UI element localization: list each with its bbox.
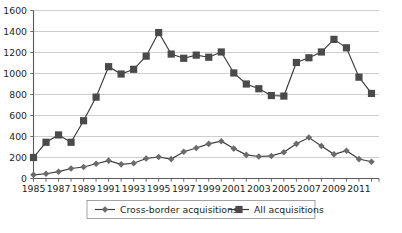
data-point-marker bbox=[93, 161, 100, 168]
y-tick-label: 1000 bbox=[3, 68, 27, 79]
data-point-marker bbox=[230, 145, 237, 152]
x-tick-label: 2003 bbox=[247, 183, 271, 194]
data-point-marker bbox=[30, 154, 37, 161]
chart-container: 02004006008001000120014001600 1985198719… bbox=[0, 0, 402, 233]
data-point-marker bbox=[105, 63, 112, 70]
data-point-marker bbox=[255, 85, 262, 92]
data-point-marker bbox=[42, 139, 49, 146]
data-point-marker bbox=[55, 131, 62, 138]
data-point-marker bbox=[368, 158, 375, 165]
data-point-marker bbox=[318, 143, 325, 150]
data-point-marker bbox=[130, 66, 137, 73]
data-point-marker bbox=[305, 54, 312, 61]
x-tick-label: 1991 bbox=[97, 183, 121, 194]
data-point-marker bbox=[243, 80, 250, 87]
data-point-marker bbox=[105, 157, 112, 164]
data-point-marker bbox=[268, 153, 275, 160]
data-point-marker bbox=[343, 44, 350, 51]
data-point-marker bbox=[343, 147, 350, 154]
data-point-marker bbox=[355, 74, 362, 81]
data-point-marker bbox=[306, 134, 313, 141]
data-point-marker bbox=[268, 92, 275, 99]
data-point-marker bbox=[356, 156, 363, 163]
data-point-marker bbox=[30, 172, 37, 179]
data-point-marker bbox=[293, 59, 300, 66]
gridlines bbox=[34, 11, 380, 158]
x-tick-label: 2009 bbox=[322, 183, 346, 194]
data-point-marker bbox=[92, 94, 99, 101]
data-point-marker bbox=[43, 170, 50, 177]
x-tick-label: 1989 bbox=[72, 183, 96, 194]
data-point-marker bbox=[193, 52, 200, 59]
x-tick-label: 1995 bbox=[147, 183, 171, 194]
data-point-marker bbox=[143, 53, 150, 60]
y-axis-ticks: 02004006008001000120014001600 bbox=[3, 5, 33, 184]
x-tick-label: 1997 bbox=[172, 183, 196, 194]
data-point-marker bbox=[130, 160, 137, 167]
y-tick-label: 1600 bbox=[3, 5, 27, 16]
data-point-marker bbox=[256, 153, 263, 160]
y-tick-label: 200 bbox=[9, 152, 27, 163]
y-tick-label: 600 bbox=[9, 110, 27, 121]
x-tick-label: 1985 bbox=[22, 183, 46, 194]
x-tick-label: 2011 bbox=[347, 183, 371, 194]
data-point-marker bbox=[331, 151, 338, 158]
data-point-marker bbox=[67, 139, 74, 146]
x-tick-label: 2007 bbox=[297, 183, 321, 194]
data-point-marker bbox=[293, 141, 300, 148]
data-point-marker bbox=[143, 155, 150, 162]
data-point-marker bbox=[205, 141, 212, 148]
chart-legend: Cross-border acquisitionsAll acquisition… bbox=[87, 201, 324, 219]
x-tick-label: 1987 bbox=[47, 183, 71, 194]
data-point-marker bbox=[168, 50, 175, 57]
y-tick-label: 400 bbox=[9, 131, 27, 142]
x-tick-label: 2001 bbox=[222, 183, 246, 194]
y-tick-label: 1200 bbox=[3, 47, 27, 58]
data-point-marker bbox=[230, 69, 237, 76]
data-point-marker bbox=[281, 149, 288, 156]
legend-label: All acquisitions bbox=[254, 204, 324, 215]
y-tick-label: 1400 bbox=[3, 26, 27, 37]
x-axis-ticks: 1985198719891991199319951997199920012003… bbox=[22, 179, 379, 195]
data-point-marker bbox=[180, 55, 187, 62]
data-point-marker bbox=[80, 164, 87, 171]
data-point-marker bbox=[218, 48, 225, 55]
data-point-marker bbox=[80, 117, 87, 124]
data-point-marker bbox=[330, 36, 337, 43]
x-tick-label: 1993 bbox=[122, 183, 146, 194]
data-point-marker bbox=[68, 165, 75, 172]
line-chart: 02004006008001000120014001600 1985198719… bbox=[0, 0, 402, 233]
data-point-marker bbox=[218, 138, 225, 145]
data-point-marker bbox=[155, 154, 162, 161]
data-point-marker bbox=[280, 92, 287, 99]
data-point-marker bbox=[118, 70, 125, 77]
data-point-marker bbox=[55, 168, 62, 175]
data-point-marker bbox=[368, 90, 375, 97]
data-point-marker bbox=[155, 29, 162, 36]
x-tick-label: 1999 bbox=[197, 183, 221, 194]
data-point-marker bbox=[180, 148, 187, 155]
data-point-marker bbox=[193, 145, 200, 152]
data-point-marker bbox=[318, 48, 325, 55]
data-point-marker bbox=[168, 156, 175, 163]
y-tick-label: 800 bbox=[9, 89, 27, 100]
x-tick-label: 2005 bbox=[272, 183, 296, 194]
series-all-acquisitions bbox=[30, 29, 375, 161]
data-point-marker bbox=[118, 161, 125, 168]
data-point-marker bbox=[205, 54, 212, 61]
legend-marker-square bbox=[235, 206, 242, 213]
series-cross-border-acquisitions bbox=[30, 134, 375, 178]
legend-label: Cross-border acquisitions bbox=[120, 204, 238, 215]
